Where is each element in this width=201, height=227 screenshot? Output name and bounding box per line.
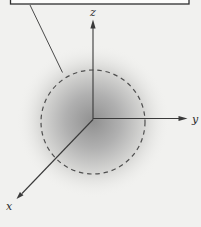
x-axis-label: x: [6, 200, 13, 213]
callout-box: [11, 0, 190, 4]
y-axis-label: y: [191, 113, 199, 126]
z-axis-label: z: [89, 6, 96, 19]
coordinate-diagram: z y x: [0, 0, 201, 227]
figure-canvas: z y x: [0, 0, 201, 227]
